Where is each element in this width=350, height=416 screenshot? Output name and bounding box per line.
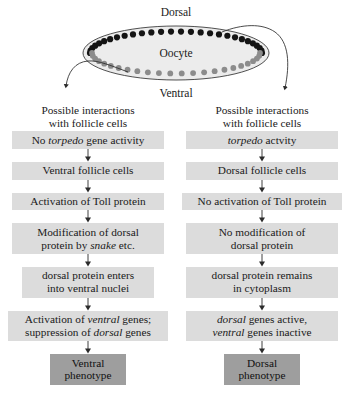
ventral-follicle-cell-dot	[222, 67, 228, 73]
step-dorsal-phenotype: Dorsalphenotype	[224, 354, 300, 385]
dorsal-follicle-cell-dot	[188, 29, 194, 35]
step-text-line: Ventral	[54, 357, 122, 370]
step-text-line: in cytoplasm	[190, 282, 334, 295]
gene-name-italic: dorsal	[93, 326, 122, 338]
step-text-line: dorsal protein	[190, 239, 334, 252]
ventral-follicle-cell-dot	[212, 68, 218, 74]
step-text-line: protein by snake etc.	[16, 239, 160, 252]
ventral-follicle-cell-dot	[238, 63, 244, 69]
flow-arrow	[8, 210, 168, 223]
dorsal-follicle-cell-dot	[207, 30, 213, 36]
ventral-follicle-cell-dot	[89, 50, 95, 56]
dorsal-follicle-cell-dot	[158, 29, 164, 35]
flow-arrow	[8, 149, 168, 162]
step-text-line: No torpedo gene activity	[16, 134, 160, 147]
ventral-follicle-cell-dot	[190, 70, 196, 76]
dorsal-label: Dorsal	[161, 6, 192, 18]
left-column-header: Possible interactions with follicle cell…	[8, 104, 168, 129]
oocyte-diagram: Dorsal Oocyte Ventral	[0, 0, 350, 104]
dorsal-follicle-cell-dot	[239, 36, 245, 42]
dorsal-follicle-cell-dot	[139, 30, 145, 36]
dorsal-follicle-cell-dot	[114, 34, 120, 40]
step-no-torpedo-gene-activity: No torpedo gene activity	[12, 131, 164, 149]
flow-arrow	[8, 254, 168, 267]
step-text-line: phenotype	[54, 369, 122, 382]
right-header-line1: Possible interactions	[182, 104, 342, 117]
step-text-line: dorsal protein enters	[26, 269, 150, 282]
ventral-follicle-cell-dot	[145, 69, 151, 75]
gene-name-italic: dorsal	[217, 313, 246, 325]
step-dorsal-follicle-cells: Dorsal follicle cells	[186, 162, 338, 180]
step-no-modification-of-dorsal-protein: No modification ofdorsal protein	[186, 223, 338, 254]
ventral-follicle-cell-dot	[250, 58, 256, 64]
ventral-follicle-cell-dot	[156, 70, 162, 76]
right-header-line2: with follicle cells	[182, 117, 342, 130]
step-text-line: suppression of dorsal genes	[12, 326, 164, 339]
ventral-follicle-cell-dot	[134, 68, 140, 74]
ventral-follicle-cell-dot	[245, 61, 251, 67]
step-activation-of-toll-protein: Activation of Toll protein	[12, 193, 164, 211]
step-text-line: torpedo actvity	[190, 134, 334, 147]
dorsal-follicle-cell-dot	[224, 33, 230, 39]
dorsal-follicle-cell-dot	[101, 38, 107, 44]
dorsal-follicle-cell-dot	[107, 36, 113, 42]
step-dorsal-genes-active-ventral-inactive: dorsal genes active,ventral genes inacti…	[186, 311, 338, 342]
step-text-line: dorsal genes active,	[190, 313, 334, 326]
flow-arrow	[182, 298, 342, 311]
step-text-line: phenotype	[228, 369, 296, 382]
ventral-follicle-cell-dot	[230, 65, 236, 71]
step-text-line: into ventral nuclei	[26, 282, 150, 295]
step-no-activation-of-toll-protein: No activation of Toll protein	[182, 193, 342, 211]
step-dorsal-protein-remains-in-cytoplasm: dorsal protein remainsin cytoplasm	[186, 267, 338, 298]
step-dorsal-protein-enters-ventral-nuclei: dorsal protein entersinto ventral nuclei	[22, 267, 154, 298]
left-pathway-flowchart: No torpedo gene activityVentral follicle…	[4, 131, 172, 385]
flow-arrow	[182, 210, 342, 223]
dorsal-follicle-cell-dot	[168, 28, 174, 34]
dorsal-follicle-cell-dot	[198, 29, 204, 35]
gene-name-italic: ventral	[212, 326, 244, 338]
flow-arrow	[182, 254, 342, 267]
flow-arrow	[182, 149, 342, 162]
dorsal-follicle-cell-dot	[232, 34, 238, 40]
gene-name-italic: torpedo	[228, 134, 263, 146]
step-text-line: ventral genes inactive	[190, 326, 334, 339]
oocyte-label: Oocyte	[159, 47, 192, 60]
figure-root: Dorsal Oocyte Ventral Possible interacti…	[0, 0, 350, 416]
gene-name-italic: ventral	[88, 313, 120, 325]
ventral-label: Ventral	[159, 87, 192, 99]
ventral-follicle-cell-dot	[167, 71, 173, 77]
gene-name-italic: torpedo	[48, 134, 83, 146]
flow-arrow	[8, 341, 168, 354]
step-ventral-follicle-cells: Ventral follicle cells	[12, 162, 164, 180]
dorsal-follicle-cell-dot	[122, 33, 128, 39]
flow-arrow	[8, 180, 168, 193]
step-text-line: Activation of Toll protein	[16, 195, 160, 208]
step-text-line: Modification of dorsal	[16, 226, 160, 239]
step-activation-ventral-suppression-dorsal: Activation of ventral genes;suppression …	[8, 311, 168, 342]
ventral-follicle-cell-dot	[201, 69, 207, 75]
dorsal-follicle-cell-dot	[178, 28, 184, 34]
step-text-line: No modification of	[190, 226, 334, 239]
step-text-line: Activation of ventral genes;	[12, 313, 164, 326]
step-ventral-phenotype: Ventralphenotype	[50, 354, 126, 385]
step-modification-of-dorsal-protein: Modification of dorsalprotein by snake e…	[12, 223, 164, 254]
step-text-line: dorsal protein remains	[190, 269, 334, 282]
left-header-line1: Possible interactions	[8, 104, 168, 117]
dorsal-follicle-cell-dot	[216, 31, 222, 37]
ventral-follicle-cell-dot	[179, 71, 185, 77]
dorsal-follicle-cell-dot	[148, 29, 154, 35]
flow-arrow	[182, 341, 342, 354]
step-text-line: Dorsal	[228, 357, 296, 370]
flow-arrow	[182, 180, 342, 193]
right-pathway-flowchart: torpedo actvityDorsal follicle cellsNo a…	[178, 131, 346, 385]
step-text-line: Ventral follicle cells	[16, 164, 160, 177]
step-torpedo-activity: torpedo actvity	[186, 131, 338, 149]
step-text-line: No activation of Toll protein	[186, 195, 338, 208]
right-column-header: Possible interactions with follicle cell…	[182, 104, 342, 129]
dorsal-follicle-cell-dot	[130, 31, 136, 37]
step-text-line: Dorsal follicle cells	[190, 164, 334, 177]
flow-arrow	[8, 298, 168, 311]
left-header-line2: with follicle cells	[8, 117, 168, 130]
gene-name-italic: snake	[90, 239, 116, 251]
